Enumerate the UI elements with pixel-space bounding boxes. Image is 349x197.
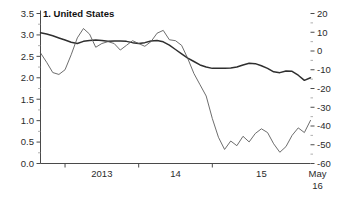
right-tick-label: -50 <box>317 139 331 150</box>
left-tick-label: 2.0 <box>21 72 34 83</box>
x-tick-label-year: 16 <box>312 180 323 191</box>
right-tick-label: -40 <box>317 120 331 131</box>
line-chart: 1. United States 0.00.51.01.52.02.53.03.… <box>0 0 349 197</box>
right-tick-label: -20 <box>317 83 331 94</box>
right-tick-label: 20 <box>317 8 328 19</box>
left-tick-label: 3.0 <box>21 29 34 40</box>
x-tick-label: May <box>309 168 327 179</box>
left-tick-label: 0.0 <box>21 158 34 169</box>
page-title: 1. United States <box>43 8 114 19</box>
x-tick-label: 15 <box>256 168 267 179</box>
series-core-inflation-left-axis <box>41 33 311 81</box>
series-commodity-index-right-axis <box>41 29 311 153</box>
right-tick-label: -30 <box>317 102 331 113</box>
left-tick-label: 1.5 <box>21 94 34 105</box>
x-tick-label: 14 <box>170 168 181 179</box>
x-tick-label: 2013 <box>91 168 112 179</box>
data-series-group <box>41 29 311 153</box>
left-tick-label: 0.5 <box>21 136 34 147</box>
left-tick-label: 2.5 <box>21 51 34 62</box>
left-axis: 0.00.51.01.52.02.53.03.5 <box>21 8 41 169</box>
left-tick-label: 3.5 <box>21 8 34 19</box>
x-axis: 20131415May16 <box>41 164 327 191</box>
right-axis: 20100-10-20-30-40-50-60 <box>311 8 331 169</box>
right-tick-label: 0 <box>317 45 322 56</box>
right-tick-label: 10 <box>317 27 328 38</box>
left-tick-label: 1.0 <box>21 115 34 126</box>
chart-figure: 1. United States 0.00.51.01.52.02.53.03.… <box>0 0 349 197</box>
right-tick-label: -10 <box>317 64 331 75</box>
chart-title-group: 1. United States <box>43 8 114 19</box>
